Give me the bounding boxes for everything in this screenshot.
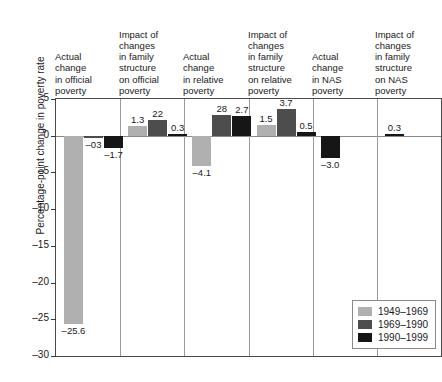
legend-item-1990-1999: 1990–1999: [358, 331, 428, 344]
legend-label-1949-1969: 1949–1969: [378, 306, 428, 317]
bar: [84, 136, 103, 138]
y-tick-label: –5: [38, 165, 49, 176]
panel-header-impact-family-relative: Impact of changes in family structure on…: [248, 29, 312, 98]
legend-item-1949-1969: 1949–1969: [358, 305, 428, 318]
y-tick-label: –25: [32, 312, 49, 323]
bar: [385, 134, 404, 136]
legend-swatch-1990-1999: [358, 333, 372, 342]
bar-value-label: 0.3: [377, 122, 412, 133]
bar-group: –4.1282.7: [184, 99, 248, 356]
bar-value-label: –4.1: [184, 167, 219, 178]
y-axis-title: Percentage-point change in poverty rate: [35, 18, 46, 274]
chart-legend: 1949–1969 1969–1990 1990–1999: [352, 300, 436, 349]
bar: [321, 136, 340, 158]
y-tick-label: –15: [32, 239, 49, 250]
y-tick-label: 0: [43, 129, 49, 140]
y-tick-label: –20: [32, 276, 49, 287]
panel-header-impact-family-nas: Impact of changes in family structure on…: [375, 29, 442, 98]
bar-group: 1.53.70.5: [249, 99, 313, 356]
panel-header-actual-change-nas: Actual change in NAS poverty: [312, 51, 375, 98]
y-tick-label: –10: [32, 202, 49, 213]
bar: [212, 115, 231, 136]
bar-group: 1.3220.3: [120, 99, 184, 356]
panel-header-actual-change-relative: Actual change in relative poverty: [183, 51, 248, 98]
legend-swatch-1949-1969: [358, 307, 372, 316]
y-tick-mark: [51, 356, 56, 357]
bar-value-label: 22: [140, 108, 175, 119]
bar-value-label: –25.6: [56, 325, 91, 336]
legend-swatch-1969-1990: [358, 320, 372, 329]
y-tick-label: 5: [43, 92, 49, 103]
bar: [128, 126, 147, 136]
legend-label-1990-1999: 1990–1999: [378, 332, 428, 343]
panel-headers: Actual change in official poverty Impact…: [55, 4, 442, 98]
legend-item-1969-1990: 1969–1990: [358, 318, 428, 331]
legend-label-1969-1990: 1969–1990: [378, 319, 428, 330]
bar-chart-figure: Actual change in official poverty Impact…: [0, 0, 442, 382]
panel-header-actual-change-official: Actual change in official poverty: [55, 51, 119, 98]
bar-group: –25.6–03–1.7: [56, 99, 120, 356]
bar: [257, 125, 276, 136]
bar-value-label: –3.0: [313, 159, 348, 170]
bar-value-label: 3.7: [269, 97, 304, 108]
y-tick-label: –30: [32, 349, 49, 360]
bar: [64, 136, 83, 324]
panel-header-impact-family-official: Impact of changes in family structure on…: [119, 29, 183, 98]
bar: [192, 136, 211, 166]
